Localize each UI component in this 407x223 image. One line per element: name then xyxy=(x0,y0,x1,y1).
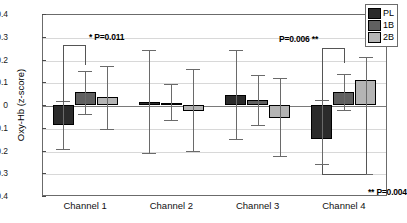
y-axis-tick-label: 0.2 xyxy=(0,55,8,65)
error-bar-line xyxy=(236,50,237,138)
x-axis-tick-label: Channel 3 xyxy=(236,200,279,211)
legend-item-2b: 2B xyxy=(368,32,394,43)
gridline xyxy=(43,152,386,153)
sig-label-channel4-lower: ** P=0.004 xyxy=(368,187,407,197)
error-bar-cap-lower xyxy=(337,110,351,111)
sig-bracket-ch1-left xyxy=(63,45,64,102)
error-bar-line xyxy=(171,84,172,120)
legend: PL 1B 2B xyxy=(365,4,398,47)
y-axis-tick-mark xyxy=(42,151,46,152)
y-axis-tick-mark xyxy=(42,37,46,38)
error-bar-cap-lower xyxy=(186,151,200,152)
error-bar-cap-lower xyxy=(164,120,178,121)
error-bar-cap-upper xyxy=(164,84,178,85)
y-axis-tick-label: -0.1 xyxy=(0,123,8,133)
y-axis-tick-label: -0.4 xyxy=(0,191,8,201)
error-bar-line xyxy=(344,74,345,110)
error-bar-cap-upper xyxy=(142,50,156,51)
error-bar-cap-lower xyxy=(229,139,243,140)
legend-item-1b: 1B xyxy=(368,20,394,31)
legend-label-1b: 1B xyxy=(383,21,394,30)
error-bar-cap-lower xyxy=(273,156,287,157)
error-bar-line xyxy=(107,66,108,129)
y-axis-tick-label: -0.3 xyxy=(0,168,8,178)
gridline xyxy=(43,83,386,84)
y-axis-tick-mark xyxy=(42,14,46,15)
error-bar-line xyxy=(322,100,323,163)
legend-item-pl: PL xyxy=(368,8,394,19)
error-bar-cap-lower xyxy=(142,153,156,154)
sig-label-channel1: * P=0.011 xyxy=(89,32,124,42)
error-bar-cap-lower xyxy=(56,149,70,150)
error-bar-line xyxy=(280,78,281,156)
error-bar-line xyxy=(63,101,64,149)
legend-swatch-pl xyxy=(368,8,381,19)
sig-bracket-ch4l-right xyxy=(366,110,367,174)
x-axis-tick-label: Channel 1 xyxy=(63,200,106,211)
error-bar-cap-lower xyxy=(100,129,114,130)
sig-bracket-ch4l-bottom xyxy=(322,174,366,175)
y-axis-tick-label: 0.1 xyxy=(0,77,8,87)
error-bar-line xyxy=(85,71,86,114)
y-axis-tick-label: -0.2 xyxy=(0,146,8,156)
gridline xyxy=(43,61,386,62)
error-bar-cap-lower xyxy=(78,114,92,115)
x-axis-tick-label: Channel 2 xyxy=(150,200,193,211)
y-axis-tick-mark xyxy=(42,105,46,106)
error-bar-cap-lower xyxy=(251,125,265,126)
error-bar-cap-upper xyxy=(100,66,114,67)
y-axis-tick-label: 0 xyxy=(3,100,8,110)
error-bar-cap-upper xyxy=(186,69,200,70)
error-bar-line xyxy=(149,50,150,152)
error-bar-line xyxy=(258,75,259,125)
sig-bracket-ch4l-left xyxy=(322,165,323,175)
error-bar-cap-upper xyxy=(229,50,243,51)
sig-bracket-ch1-right xyxy=(85,45,86,64)
zero-axis-line xyxy=(43,106,386,107)
y-axis-tick-mark xyxy=(42,196,46,197)
error-bar-cap-upper xyxy=(251,75,265,76)
sig-bracket-ch4u-top xyxy=(322,48,344,49)
legend-label-2b: 2B xyxy=(383,33,394,42)
error-bar-line xyxy=(193,69,194,151)
y-axis-tick-mark xyxy=(42,82,46,83)
y-axis-tick-label: 0.4 xyxy=(0,9,8,19)
x-axis-tick-label: Channel 4 xyxy=(322,200,365,211)
gridline xyxy=(43,129,386,130)
legend-label-pl: PL xyxy=(383,9,394,18)
y-axis-label: Oxy-Hb (z-score) xyxy=(15,35,26,175)
sig-label-channel4-upper: P=0.006 ** xyxy=(279,34,318,44)
sig-bracket-ch1-top xyxy=(63,45,85,46)
y-axis-tick-mark xyxy=(42,60,46,61)
sig-bracket-ch4u-left xyxy=(322,48,323,100)
y-axis-tick-mark xyxy=(42,173,46,174)
legend-swatch-1b xyxy=(368,20,381,31)
error-bar-cap-upper xyxy=(315,100,329,101)
sig-bracket-ch4u-right xyxy=(344,48,345,63)
legend-swatch-2b xyxy=(368,32,381,43)
error-bar-cap-upper xyxy=(78,71,92,72)
error-bar-cap-upper xyxy=(337,74,351,75)
error-bar-cap-upper xyxy=(273,78,287,79)
y-axis-tick-mark xyxy=(42,128,46,129)
error-bar-cap-upper xyxy=(359,57,373,58)
y-axis-tick-label: 0.3 xyxy=(0,32,8,42)
